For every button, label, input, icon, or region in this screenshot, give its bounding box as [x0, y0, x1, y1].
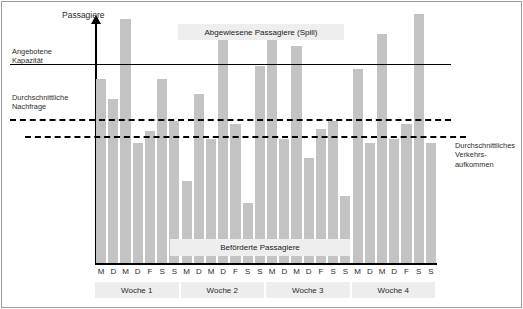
x-tick-label: M: [290, 267, 302, 276]
x-axis-line: [95, 263, 437, 265]
x-tick-label: S: [156, 267, 168, 276]
x-tick-label: F: [229, 267, 241, 276]
bar: [120, 19, 130, 263]
spill-callout: Abgewiesene Passagiere (Spill): [178, 24, 344, 40]
week-band: Woche 3: [266, 282, 350, 298]
bar: [157, 79, 167, 263]
x-tick-label: M: [119, 267, 131, 276]
capacity-label: AngeboteneKapazität: [12, 47, 52, 66]
week-band: Woche 2: [181, 282, 265, 298]
bar: [133, 143, 143, 263]
average-demand-label: DurchschnittlicheNachfrage: [12, 93, 68, 112]
average-traffic-reference-line: [25, 136, 466, 138]
week-band-group: Woche 1Woche 2Woche 3Woche 4: [95, 282, 437, 298]
x-tick-label: S: [327, 267, 339, 276]
x-tick-label: D: [107, 267, 119, 276]
x-tick-label: M: [205, 267, 217, 276]
bar: [365, 143, 375, 263]
bar: [426, 143, 436, 263]
x-tick-label: M: [181, 267, 193, 276]
x-tick-label: D: [217, 267, 229, 276]
bar: [414, 14, 424, 263]
x-tick-label: S: [413, 267, 425, 276]
x-tick-label: S: [254, 267, 266, 276]
bar: [267, 24, 277, 263]
bar: [218, 26, 228, 263]
x-tick-label: D: [132, 267, 144, 276]
x-tick-label: S: [425, 267, 437, 276]
plot-area: Passagiere AngeboteneKapazität Durchschn…: [0, 0, 523, 309]
average-demand-reference-line: [10, 119, 451, 121]
x-tick-label: M: [352, 267, 364, 276]
carried-callout: Beförderte Passagiere: [170, 239, 350, 256]
x-axis-tick-labels: MDMDFSSMDMDFSSMDMDFSSMDMDFSS: [95, 267, 437, 280]
x-tick-label: D: [193, 267, 205, 276]
bar: [96, 79, 106, 263]
week-band: Woche 1: [95, 282, 179, 298]
x-tick-label: S: [242, 267, 254, 276]
x-tick-label: D: [388, 267, 400, 276]
x-tick-label: F: [144, 267, 156, 276]
x-tick-label: D: [303, 267, 315, 276]
bar: [255, 66, 265, 263]
chart-figure: Passagiere AngeboteneKapazität Durchschn…: [0, 0, 523, 309]
bar: [145, 131, 155, 263]
average-traffic-label: DurchschnittlichesVerkehrs-aufkommen: [455, 141, 515, 169]
x-tick-label: D: [278, 267, 290, 276]
week-band: Woche 4: [352, 282, 436, 298]
x-tick-label: M: [266, 267, 278, 276]
bar: [353, 69, 363, 263]
x-tick-label: F: [400, 267, 412, 276]
x-tick-label: F: [315, 267, 327, 276]
x-tick-label: M: [95, 267, 107, 276]
x-tick-label: D: [364, 267, 376, 276]
capacity-reference-line: [10, 64, 451, 65]
bar: [389, 139, 399, 264]
x-tick-label: S: [339, 267, 351, 276]
bar: [377, 34, 387, 263]
bar: [108, 99, 118, 263]
bar: [291, 46, 301, 263]
x-tick-label: M: [376, 267, 388, 276]
bar: [401, 124, 411, 263]
x-tick-label: S: [168, 267, 180, 276]
